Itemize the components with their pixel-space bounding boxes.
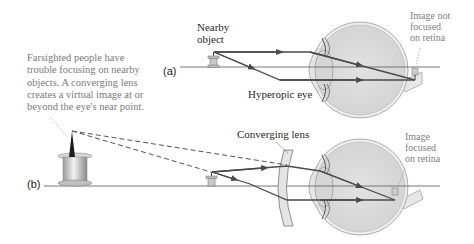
panel-b-label: (b) [27,178,40,190]
diagram-canvas [0,0,474,244]
converging-lens-label: Converging lens [237,128,309,140]
caption-line: objects. A converging lens [27,77,177,89]
caption-line: trouble focusing on nearby [27,64,177,76]
object-b-icon [206,172,217,186]
caption-line: beyond the eye's near point. [27,101,177,113]
lens-label-pointer [276,142,288,153]
converging-lens-icon [278,150,293,226]
eye-a [309,22,422,118]
nearby-object-icon [208,52,219,68]
image-not-focused-label: Image not focused on retina [410,10,450,43]
virtual-image-spool-icon [58,131,92,186]
panel-a-label: (a) [163,65,176,77]
caption-line: Farsighted people have [27,52,177,64]
caption-pointer [50,117,68,138]
caption-line: creates a virtual image at or [27,89,177,101]
caption-text: Farsighted people have trouble focusing … [27,52,177,113]
image-focused-label: Image focused on retina [405,131,440,164]
nearby-object-label: Nearby object [197,21,229,46]
hyperopic-eye-label: Hyperopic eye [248,88,312,100]
